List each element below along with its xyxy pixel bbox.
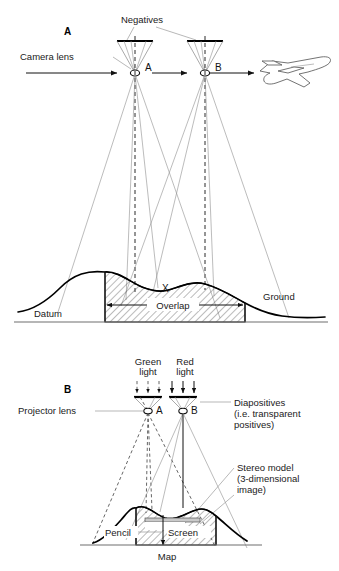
projector-lens-label: Projector lens (18, 405, 76, 416)
diapositives-label-line1: Diapositives (234, 397, 285, 408)
canvas-background (0, 0, 339, 571)
red-light-label-line2: light (176, 366, 194, 377)
photogrammetry-diagram: A Negatives Camera lens A (0, 0, 339, 571)
overlap-label: Overlap (156, 300, 189, 311)
negatives-label: Negatives (121, 14, 163, 25)
station-b-label: B (215, 62, 222, 73)
green-light-label-line2: light (139, 366, 157, 377)
stereo-model-label-line1: Stereo model (237, 462, 294, 473)
station-a-label: A (145, 62, 152, 73)
stereo-model-label-line3: image) (237, 484, 266, 495)
projector-lens-a-icon (144, 408, 152, 414)
point-x-label: X (162, 283, 169, 294)
panel-b-letter: B (64, 384, 71, 395)
projector-station-a-label: A (156, 405, 163, 416)
panel-a-letter: A (64, 26, 71, 37)
camera-lens-label: Camera lens (20, 51, 74, 62)
screen-label: Screen (168, 527, 198, 538)
diapositives-label-line3: positives) (234, 419, 274, 430)
ground-label: Ground (263, 291, 295, 302)
projector-station-b-label: B (191, 405, 198, 416)
pencil-label: Pencil (105, 527, 131, 538)
datum-label: Datum (34, 308, 62, 319)
diapositives-label-line2: (i.e. transparent (234, 408, 301, 419)
stereo-model-label-line2: (3-dimensional (237, 473, 299, 484)
projector-lens-b-icon (179, 408, 187, 414)
map-label: Map (158, 551, 176, 562)
screen-bar (145, 518, 200, 522)
